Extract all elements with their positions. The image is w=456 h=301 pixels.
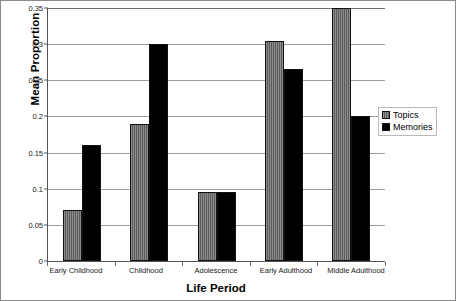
y-axis-tick-label: 0.15: [28, 148, 43, 157]
x-axis-tick-label: Early Adulthood: [251, 266, 321, 275]
bar-topics-early-childhood[interactable]: [63, 210, 82, 261]
legend-item-memories[interactable]: Memories: [382, 122, 433, 132]
bar-group: [318, 8, 385, 261]
x-axis-tick-labels: Early ChildhoodChildhoodAdolescenceEarly…: [41, 266, 391, 275]
bar-memories-childhood[interactable]: [149, 44, 168, 261]
plot-area: 00.050.10.150.20.250.30.35: [47, 8, 385, 262]
legend-label: Memories: [393, 122, 433, 132]
y-axis-tick-label: 0.35: [28, 4, 43, 13]
bar-memories-middle-adulthood[interactable]: [351, 116, 370, 261]
bar-chart-figure: Mean Proportion 00.050.10.150.20.250.30.…: [0, 0, 456, 301]
bar-topics-adolescence[interactable]: [198, 192, 217, 261]
y-axis-tick-label: 0: [39, 257, 43, 266]
x-axis-tick-label: Childhood: [111, 266, 181, 275]
legend-item-topics[interactable]: Topics: [382, 110, 433, 120]
y-axis-tick-label: 0.25: [28, 76, 43, 85]
y-axis-tick-label: 0.05: [28, 220, 43, 229]
chart-legend: TopicsMemories: [378, 107, 437, 136]
x-axis-tick-label: Early Childhood: [41, 266, 111, 275]
y-axis-tick-label: 0.3: [33, 40, 43, 49]
bar-memories-adolescence[interactable]: [217, 192, 236, 261]
y-axis-tick-label: 0.2: [33, 112, 43, 121]
bar-group: [115, 8, 182, 261]
legend-swatch-topics-icon: [382, 111, 390, 119]
bar-topics-middle-adulthood[interactable]: [332, 8, 351, 261]
bar-topics-childhood[interactable]: [130, 124, 149, 261]
bar-group: [250, 8, 317, 261]
x-axis-tick-label: Adolescence: [181, 266, 251, 275]
bar-group: [48, 8, 115, 261]
x-axis-title: Life Period: [47, 282, 385, 294]
bar-topics-early-adulthood[interactable]: [265, 41, 284, 261]
y-axis-tick-label: 0.1: [33, 184, 43, 193]
x-axis-tick-label: Middle Adulthood: [321, 266, 391, 275]
legend-label: Topics: [393, 110, 419, 120]
legend-swatch-memories-icon: [382, 123, 390, 131]
bar-series-container: [48, 8, 385, 261]
bar-memories-early-childhood[interactable]: [82, 145, 101, 261]
bar-memories-early-adulthood[interactable]: [284, 69, 303, 261]
bar-group: [183, 8, 250, 261]
